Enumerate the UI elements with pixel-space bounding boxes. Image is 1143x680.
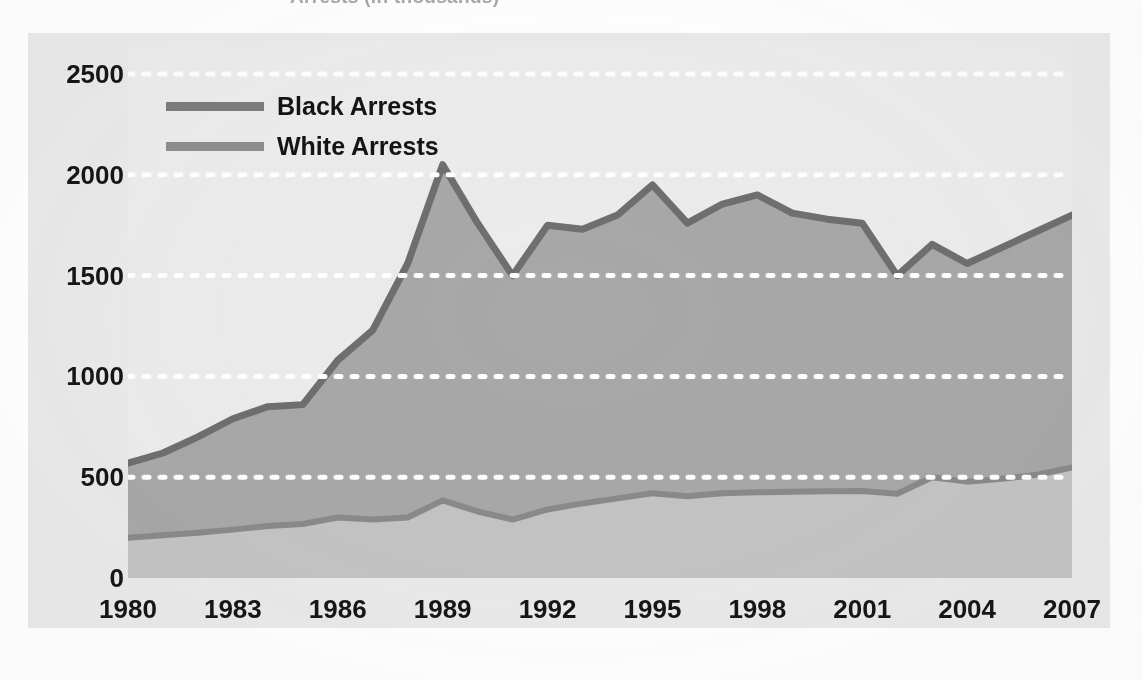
legend-item-white-arrests: White Arrests: [166, 126, 496, 166]
y-tick-2500: 2500: [32, 61, 124, 87]
chart-legend: Black ArrestsWhite Arrests: [166, 86, 496, 166]
x-tick-1986: 1986: [309, 596, 367, 622]
legend-swatch-icon: [166, 102, 264, 111]
page-title: Arrests (in thousands): [290, 0, 499, 8]
right-gutter: [1072, 33, 1110, 628]
x-tick-1992: 1992: [519, 596, 577, 622]
y-tick-1500: 1500: [32, 263, 124, 289]
page-title-strip: Arrests (in thousands): [0, 0, 1143, 14]
y-tick-1000: 1000: [32, 363, 124, 389]
x-axis: 1980198319861989199219951998200120042007: [0, 578, 1143, 638]
x-tick-1995: 1995: [624, 596, 682, 622]
legend-swatch-icon: [166, 142, 264, 151]
x-tick-1980: 1980: [99, 596, 157, 622]
x-tick-2004: 2004: [938, 596, 996, 622]
x-tick-1983: 1983: [204, 596, 262, 622]
legend-item-black-arrests: Black Arrests: [166, 86, 496, 126]
legend-label: White Arrests: [277, 134, 439, 159]
x-tick-2001: 2001: [833, 596, 891, 622]
legend-label: Black Arrests: [277, 94, 437, 119]
x-tick-2007: 2007: [1043, 596, 1101, 622]
y-tick-2000: 2000: [32, 162, 124, 188]
y-axis: 25002000150010005000: [28, 33, 124, 628]
x-tick-1989: 1989: [414, 596, 472, 622]
y-tick-500: 500: [32, 464, 124, 490]
x-tick-1998: 1998: [728, 596, 786, 622]
